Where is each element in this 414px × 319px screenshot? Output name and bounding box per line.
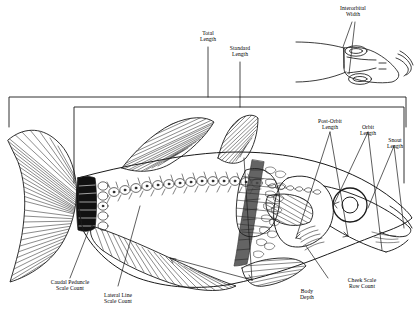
inset-right-eye [349,74,372,85]
label-standard-length: Standard Length [218,45,262,57]
diagram-canvas [0,0,414,319]
label-total-length: Total Length [186,30,230,42]
dorsal-head-inset [296,42,413,84]
label-cheek-scale-row-count: Cheek Scale Row Count [331,277,393,289]
label-lateral-line-scale-count: Lateral Line Scale Count [84,292,152,304]
snout-length-caliper [368,146,404,228]
post-orbit-length-caliper [296,132,348,239]
cheek-scale-leader [306,246,328,278]
label-caudal-peduncle-scale-count: Caudal Peduncle Scale Count [34,279,106,291]
label-interorbital-width: Interorbital Width [322,5,384,17]
label-orbit-length: Orbit Length [349,124,387,136]
caudal-fin [6,130,78,282]
anal-fin [90,224,236,291]
dorsal-fin-first [120,116,214,172]
dorsal-fin-second [216,115,258,164]
cheek-scale-rows [297,226,324,250]
caudal-peduncle-leader [70,232,88,278]
fish-head [274,176,412,252]
fish-measurement-diagram: Total Length Standard Length Interorbita… [0,0,414,319]
label-snout-length: Snout Length [377,137,413,149]
label-body-depth: Body Depth [290,288,324,300]
ink-layer [6,22,413,291]
lateral-line-scales [107,172,321,203]
